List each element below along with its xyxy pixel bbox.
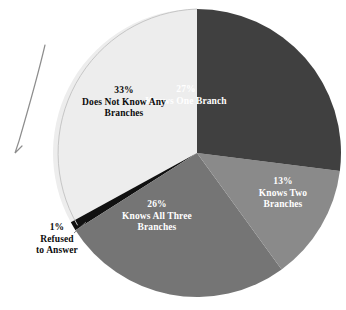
pie-chart-figure: 27% Knows One Branch 13% Knows Two Branc… [0,0,346,310]
pie-chart-svg [0,0,346,310]
handwritten-annotation-mark [15,45,45,153]
pie-slice-knows-one-branch[interactable] [197,9,341,171]
